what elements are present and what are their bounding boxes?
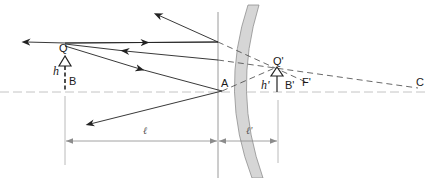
mirror-diagram: Q h B A Q' h' B' F' C ℓ ℓ': [0, 0, 428, 178]
ray-parallel-reflected: [158, 15, 218, 42]
label-object-top: Q: [59, 42, 68, 54]
ray-to-center: [65, 44, 218, 60]
label-center: C: [416, 76, 424, 88]
ray-parallel-virtual: [218, 42, 308, 83]
ray-center-virtual: [218, 60, 418, 88]
label-focal-point: F': [302, 76, 311, 88]
label-object-distance: ℓ: [143, 125, 147, 136]
label-object-base: B: [69, 75, 76, 87]
label-image-height: h': [261, 78, 270, 92]
image-arrow-icon: [271, 67, 283, 76]
label-image-distance: ℓ': [246, 125, 253, 136]
object-arrow-icon: [59, 56, 71, 66]
ray-vertex-reflected: [90, 91, 222, 124]
label-image-top: Q': [273, 55, 284, 67]
label-object-height: h: [53, 64, 59, 78]
label-vertex: A: [221, 77, 229, 89]
label-image-base: B': [285, 79, 294, 91]
